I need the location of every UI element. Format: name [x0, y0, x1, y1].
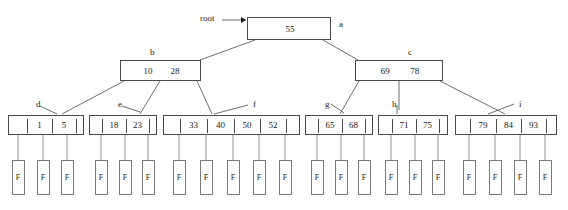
record-box[interactable]: F [539, 160, 552, 195]
node-e[interactable]: 1823 [89, 115, 157, 135]
pointer-tick [496, 119, 497, 133]
record-box[interactable]: F [12, 160, 25, 195]
key-value: 84 [504, 121, 513, 130]
pointer-tick [102, 119, 103, 133]
record-label: F [543, 174, 547, 182]
pointer-tick [365, 119, 366, 133]
pointer-tick [52, 119, 53, 133]
record-label: F [389, 174, 393, 182]
node-label-c: c [408, 48, 412, 57]
node-d[interactable]: 15 [8, 115, 84, 135]
node-b[interactable]: 1028 [120, 60, 201, 81]
key-value: 93 [529, 121, 538, 130]
label-leader-f [214, 105, 248, 114]
record-label: F [99, 174, 103, 182]
record-label: F [493, 174, 497, 182]
record-label: F [204, 174, 208, 182]
record-box[interactable]: F [489, 160, 502, 195]
node-c[interactable]: 6978 [355, 60, 443, 81]
node-label-g: g [325, 100, 330, 109]
record-box[interactable]: F [514, 160, 527, 195]
record-label: F [436, 174, 440, 182]
node-e-keys: 1823 [90, 116, 156, 134]
record-box[interactable]: F [432, 160, 445, 195]
pointer-tick [126, 119, 127, 133]
pointer-tick [180, 119, 181, 133]
key-value: 33 [189, 121, 198, 130]
node-g-keys: 6568 [306, 116, 372, 134]
node-label-b: b [150, 48, 155, 57]
record-box[interactable]: F [409, 160, 422, 195]
record-box[interactable]: F [61, 160, 74, 195]
node-label-d: d [36, 100, 41, 109]
edge-a-c [323, 40, 358, 60]
key-value: 28 [171, 66, 180, 75]
record-box[interactable]: F [142, 160, 155, 195]
record-label: F [41, 174, 45, 182]
root-pointer-arrowhead [241, 17, 246, 23]
record-label: F [413, 174, 417, 182]
pointer-tick [470, 119, 471, 133]
record-box[interactable]: F [358, 160, 371, 195]
record-label: F [177, 174, 181, 182]
node-f[interactable]: 33405052 [163, 115, 300, 135]
key-value: 5 [62, 121, 67, 130]
record-box[interactable]: F [119, 160, 132, 195]
node-c-keys: 6978 [356, 61, 442, 80]
record-box[interactable]: F [253, 160, 266, 195]
record-box[interactable]: F [279, 160, 292, 195]
key-value: 23 [133, 121, 142, 130]
pointer-tick [27, 119, 28, 133]
node-a[interactable]: 55 [247, 17, 331, 40]
pointer-tick [234, 119, 235, 133]
node-label-a: a [339, 20, 343, 29]
key-value: 78 [410, 66, 419, 75]
key-value: 55 [286, 24, 295, 33]
record-box[interactable]: F [385, 160, 398, 195]
key-value: 71 [400, 121, 409, 130]
pointer-tick [392, 119, 393, 133]
pointer-tick [342, 119, 343, 133]
record-box[interactable]: F [95, 160, 108, 195]
record-label: F [467, 174, 471, 182]
label-leader-i [488, 104, 514, 114]
pointer-tick [76, 119, 77, 133]
node-i-keys: 798493 [456, 116, 556, 134]
label-leader-g [331, 104, 344, 113]
record-label: F [16, 174, 20, 182]
node-label-i: i [519, 100, 522, 109]
key-value: 75 [423, 121, 432, 130]
pointer-tick [318, 119, 319, 133]
key-value: 18 [110, 121, 119, 130]
record-label: F [362, 174, 366, 182]
node-g[interactable]: 6568 [305, 115, 373, 135]
key-value: 10 [144, 66, 153, 75]
pointer-tick [149, 119, 150, 133]
key-value: 69 [381, 66, 390, 75]
btree-diagram: 55a1028b6978c15d1823e33405052f6568g7175h… [0, 0, 568, 210]
record-box[interactable]: F [200, 160, 213, 195]
edge-c-i [440, 81, 505, 114]
pointer-tick [521, 119, 522, 133]
record-box[interactable]: F [311, 160, 324, 195]
record-box[interactable]: F [173, 160, 186, 195]
node-label-f: f [253, 100, 256, 109]
node-label-h: h [392, 100, 397, 109]
node-label-e: e [118, 100, 122, 109]
node-h[interactable]: 7175 [378, 115, 448, 135]
record-label: F [123, 174, 127, 182]
record-label: F [518, 174, 522, 182]
label-leader-e [122, 106, 140, 112]
edge-b-d [62, 81, 124, 114]
node-i[interactable]: 798493 [455, 115, 557, 135]
edge-c-g [340, 81, 359, 114]
node-b-keys: 1028 [121, 61, 200, 80]
record-box[interactable]: F [37, 160, 50, 195]
key-value: 40 [216, 121, 225, 130]
edge-a-b [200, 40, 255, 60]
key-value: 79 [479, 121, 488, 130]
key-value: 1 [37, 121, 42, 130]
record-box[interactable]: F [335, 160, 348, 195]
record-box[interactable]: F [463, 160, 476, 195]
record-box[interactable]: F [227, 160, 240, 195]
